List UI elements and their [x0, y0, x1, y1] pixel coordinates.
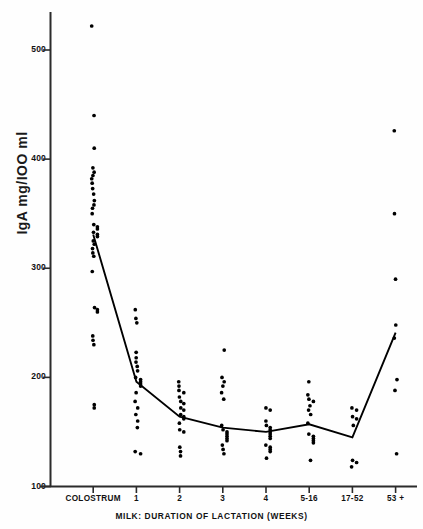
- data-point: [139, 452, 143, 456]
- data-point: [91, 174, 95, 178]
- data-point: [182, 391, 186, 395]
- data-point: [309, 413, 313, 417]
- x-tick-label: 2: [177, 494, 182, 503]
- data-point: [264, 419, 268, 423]
- data-point: [91, 166, 95, 170]
- data-point: [96, 235, 100, 239]
- data-point: [395, 378, 399, 382]
- x-tick-label: 4: [264, 494, 269, 503]
- data-point: [134, 356, 138, 360]
- data-point: [306, 393, 310, 397]
- data-point: [96, 310, 100, 314]
- data-point: [91, 247, 95, 251]
- data-point: [351, 424, 355, 428]
- data-point: [134, 413, 138, 417]
- data-point: [351, 458, 355, 462]
- x-tick-label: 53 +: [387, 494, 404, 503]
- data-point: [133, 308, 137, 312]
- data-point: [90, 181, 94, 185]
- data-point: [355, 408, 359, 412]
- data-point: [92, 403, 96, 407]
- data-point: [179, 406, 183, 410]
- data-point: [222, 380, 226, 384]
- data-point: [92, 199, 96, 203]
- data-point: [92, 170, 96, 174]
- data-point: [312, 400, 316, 404]
- data-point: [307, 408, 311, 412]
- data-point: [222, 397, 226, 401]
- data-point: [268, 450, 272, 454]
- x-tick-label: COLOSTRUM: [65, 494, 120, 503]
- data-point: [307, 397, 311, 401]
- data-point: [265, 456, 269, 460]
- data-point: [91, 251, 95, 255]
- data-point: [355, 461, 359, 465]
- plot-area: [0, 0, 423, 529]
- data-point: [182, 408, 186, 412]
- data-point: [350, 406, 354, 410]
- data-point: [307, 432, 311, 436]
- data-point: [134, 350, 138, 354]
- data-point: [393, 389, 397, 393]
- data-point: [92, 343, 96, 347]
- data-point: [134, 360, 138, 364]
- data-point: [92, 254, 96, 258]
- data-point: [178, 445, 182, 449]
- data-point: [309, 458, 313, 462]
- data-point: [225, 439, 229, 443]
- data-point: [177, 380, 181, 384]
- data-point: [350, 465, 354, 469]
- data-point: [92, 406, 96, 410]
- data-point: [91, 187, 95, 191]
- data-point: [264, 443, 268, 447]
- data-point: [394, 277, 398, 281]
- scatter-points: [90, 24, 399, 469]
- data-point: [179, 400, 183, 404]
- data-point: [222, 348, 226, 352]
- data-point: [92, 223, 96, 227]
- data-point: [355, 417, 359, 421]
- data-point: [268, 437, 272, 441]
- x-tick-label: 3: [220, 494, 225, 503]
- data-point: [394, 323, 398, 327]
- data-point: [90, 177, 94, 181]
- data-point: [90, 212, 94, 216]
- data-point: [133, 450, 137, 454]
- data-point: [92, 203, 96, 207]
- data-point: [268, 408, 272, 412]
- data-point: [91, 338, 95, 342]
- data-point: [92, 192, 96, 196]
- data-point: [221, 443, 225, 447]
- data-point: [133, 400, 137, 404]
- data-point: [178, 395, 182, 399]
- data-point: [136, 369, 140, 373]
- data-point: [177, 384, 181, 388]
- data-point: [178, 421, 182, 425]
- x-axis-title: MILK: DURATION OF LACTATION (WEEKS): [0, 511, 423, 521]
- data-point: [182, 402, 186, 406]
- data-point: [92, 146, 96, 150]
- data-point: [92, 230, 96, 234]
- data-point: [136, 419, 140, 423]
- x-tick-label: 5-16: [300, 494, 318, 503]
- data-point: [91, 334, 95, 338]
- data-point: [220, 376, 224, 380]
- data-point: [221, 384, 225, 388]
- data-point: [222, 452, 226, 456]
- data-point: [179, 450, 183, 454]
- data-point: [179, 454, 183, 458]
- data-point: [135, 321, 139, 325]
- data-point: [264, 406, 268, 410]
- chart-figure: IgA mg/IOO ml 100200300400500 COLOSTRUM1…: [0, 0, 423, 529]
- data-point: [90, 270, 94, 274]
- data-point: [92, 114, 96, 118]
- data-point: [395, 452, 399, 456]
- data-point: [220, 391, 224, 395]
- x-tick-label: 17-52: [341, 494, 363, 503]
- data-point: [308, 404, 312, 408]
- data-point: [135, 365, 139, 369]
- data-point: [312, 441, 316, 445]
- data-point: [136, 426, 140, 430]
- x-tick-label: 1: [134, 494, 139, 503]
- data-point: [307, 380, 311, 384]
